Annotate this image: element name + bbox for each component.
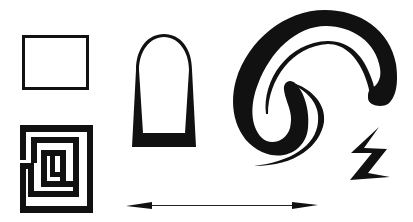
shapes-canvas: Black line-art shapes outlined rectangle…: [0, 0, 413, 222]
maze-shape: square maze / labyrinth: [20, 125, 93, 213]
shapes-drawing: outlined rectangle square maze / labyrin…: [0, 0, 413, 222]
arch-shape: arch (tombstone) outline with tapered wa…: [132, 34, 196, 147]
rectangle-shape: outlined rectangle: [24, 37, 88, 89]
lightning-bolt-shape: lightning bolt: [350, 127, 390, 180]
double-arrow-shape: double-headed horizontal arrow: [126, 202, 318, 209]
swirl-shape: thick S-shaped swirl with thin tails: [233, 10, 397, 166]
